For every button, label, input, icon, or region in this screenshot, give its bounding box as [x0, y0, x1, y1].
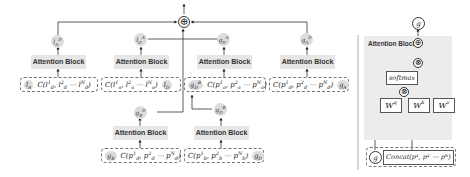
node-l-A-D: lAD [51, 35, 64, 48]
add-node: ⊕ [413, 38, 423, 48]
token-g-B-D: gDB [188, 80, 203, 90]
token-l-D: lD [162, 80, 172, 90]
node-g-A-D: gAD [300, 33, 313, 46]
node-g-D-A: gDA [217, 33, 230, 46]
sum-node: ⊕ [178, 16, 190, 28]
output-g-label: g [416, 20, 420, 28]
softmax-box: softmax [386, 71, 418, 85]
token-g-D: gD [252, 151, 264, 161]
token-g-B: gB [105, 151, 117, 161]
sum-symbol: ⊕ [180, 16, 188, 27]
input-box-2: C(l1a, l2a ⋯ lNa) lD [101, 77, 181, 92]
input-g-node: g [369, 151, 382, 164]
attention-block-3: Attention Block [197, 55, 252, 69]
input-box-1: lA C(l1d, l2d ⋯ lNd) [20, 77, 98, 92]
concat-expr: C(p1d, p2d ⋯ pNd) [273, 81, 333, 89]
attention-block-2: Attention Block [114, 55, 169, 69]
attention-block-6: Attention Block [194, 126, 249, 140]
input-box-6: C(p1b, p2b ⋯ pNb) gD [184, 148, 264, 163]
concat-expr: C(p1d, p2d ⋯ pNd) [121, 152, 181, 160]
token-l-A: lA [24, 80, 33, 90]
input-box-3: gDB C(p1a, p2a ⋯ pNa) [184, 77, 266, 92]
multiply-node-top: ⊗ [413, 58, 423, 68]
node-l-D-A: lDA [134, 33, 147, 46]
add-symbol: ⊕ [415, 38, 422, 47]
concat-expr: C(l1d, l2d ⋯ lNd) [37, 81, 90, 89]
input-box-5: gB C(p1d, p2d ⋯ pNd) [101, 148, 181, 163]
mul-symbol: ⊗ [401, 87, 408, 96]
concat-expr: C(l1a, l2a ⋯ lNa) [105, 81, 158, 89]
input-box-4: C(p1d, p2d ⋯ pNd) gA [269, 77, 349, 92]
weight-q-box: Wq [380, 98, 402, 113]
weight-v-box: Wv [433, 98, 455, 113]
multiply-node-mid: ⊗ [399, 87, 409, 97]
input-g-label: g [373, 154, 377, 162]
node-g-B-D: gBD [134, 106, 147, 119]
weight-k-box: Wk [408, 98, 430, 113]
concat-expr: C(p1a, p2a ⋯ pNa) [207, 81, 266, 89]
attention-block-5: Attention Block [113, 126, 168, 140]
panel-title: Attention Block [368, 40, 416, 47]
node-g-D-B: gDB [214, 103, 227, 116]
attention-block-4: Attention Block [280, 55, 335, 69]
mul-symbol: ⊗ [415, 58, 422, 67]
concat-expr: C(p1b, p2b ⋯ pNb) [188, 152, 248, 160]
output-g-node: g [412, 17, 425, 30]
attention-block-1: Attention Block [31, 55, 86, 69]
token-g-A: gA [337, 80, 348, 90]
concat-box: Concat(p¹, p² ⋯ pᴺ) [383, 150, 454, 165]
